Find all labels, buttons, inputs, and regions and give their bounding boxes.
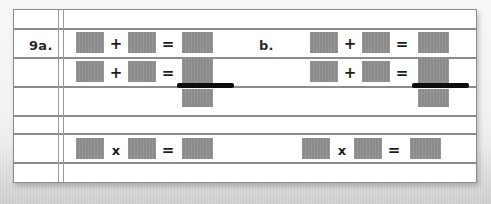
answer-underline-b xyxy=(412,83,469,88)
operator-plus-b-r2: + xyxy=(343,66,357,81)
screenshot-canvas: 9a. + = + = x = b. + = + = xyxy=(0,0,491,204)
operator-equals-b-r3: = xyxy=(387,143,401,158)
redacted-term-9a-r2-b xyxy=(128,61,156,82)
redacted-term-b-r1-a xyxy=(310,32,338,53)
redacted-answer-9a-r1 xyxy=(182,32,213,53)
margin-line-left xyxy=(58,10,59,182)
redacted-answer-b-r2 xyxy=(418,58,449,86)
ruled-line-3 xyxy=(14,86,476,88)
operator-plus-9a-r1: + xyxy=(109,37,123,52)
operator-equals-9a-r3: = xyxy=(161,143,175,158)
problem-label-9a: 9a. xyxy=(29,39,53,52)
operator-equals-b-r1: = xyxy=(395,37,409,52)
redacted-term-9a-r1-b xyxy=(128,32,156,53)
operator-equals-b-r2: = xyxy=(395,66,409,81)
operator-plus-9a-r2: + xyxy=(109,66,123,81)
redacted-term-9a-r1-a xyxy=(76,32,104,53)
redacted-term-9a-r2-a xyxy=(76,61,104,82)
redacted-term-9a-r3-a xyxy=(76,138,104,159)
ruled-line-2 xyxy=(14,57,476,59)
redacted-answer-b-r1 xyxy=(418,32,449,53)
operator-equals-9a-r1: = xyxy=(161,37,175,52)
redacted-term-b-r2-b xyxy=(362,61,390,82)
operator-times-9a-r3: x xyxy=(109,144,123,157)
ruled-line-5 xyxy=(14,133,476,135)
redacted-term-b-r1-b xyxy=(362,32,390,53)
operator-times-b-r3: x xyxy=(335,144,349,157)
redacted-answer-b-r3 xyxy=(410,138,441,159)
redacted-answer-9a-r3 xyxy=(182,138,213,159)
worksheet-card: 9a. + = + = x = b. + = + = xyxy=(13,9,477,183)
redacted-term-b-r3-a xyxy=(302,138,330,159)
redacted-term-b-r3-b xyxy=(354,138,382,159)
redacted-term-9a-r3-b xyxy=(128,138,156,159)
operator-plus-b-r1: + xyxy=(343,37,357,52)
ruled-line-1 xyxy=(14,28,476,30)
redacted-answer-overflow-b xyxy=(418,89,449,107)
margin-line-right xyxy=(63,10,64,182)
problem-label-b: b. xyxy=(259,39,274,52)
ruled-line-6 xyxy=(14,162,476,164)
redacted-answer-overflow-9a xyxy=(182,89,213,107)
redacted-answer-9a-r2 xyxy=(182,58,213,86)
ruled-line-4 xyxy=(14,115,476,117)
operator-equals-9a-r2: = xyxy=(161,66,175,81)
answer-underline-9a xyxy=(177,83,234,88)
redacted-term-b-r2-a xyxy=(310,61,338,82)
